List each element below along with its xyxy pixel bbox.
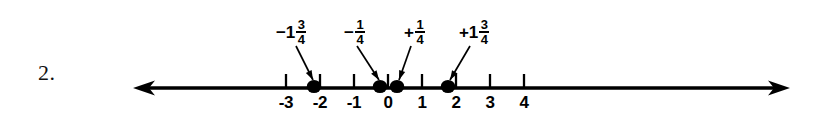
callout-fraction-point-pos-1-4: 14 (415, 18, 425, 47)
plotted-point-point-neg-1-4[interactable] (373, 80, 387, 93)
callout-label-point-neg-1-3-4: −134 (276, 18, 306, 47)
callout-fraction-point-neg-1-4: 14 (355, 18, 365, 47)
axis-tick-label-0: 0 (383, 94, 392, 111)
plotted-point-point-pos-1-3-4[interactable] (441, 80, 455, 93)
plotted-point-point-pos-1-4[interactable] (390, 80, 404, 93)
callout-fraction-point-neg-1-3-4: 34 (296, 18, 306, 47)
leader-arrowhead-icon-point-neg-1-3-4 (306, 70, 313, 80)
callout-label-point-neg-1-4: −14 (344, 18, 365, 47)
axis-tick-label-3: 3 (485, 94, 494, 111)
axis-tick-label-1: 1 (417, 94, 426, 111)
fraction-denominator-point-pos-1-3-4: 4 (480, 33, 489, 46)
callout-label-point-pos-1-3-4: +134 (459, 18, 489, 47)
callout-fraction-point-pos-1-3-4: 34 (479, 18, 489, 47)
leader-arrowhead-icon-point-neg-1-4 (371, 70, 379, 80)
leader-arrowhead-icon-point-pos-1-4 (399, 70, 405, 80)
fraction-denominator-point-pos-1-4: 4 (416, 33, 425, 46)
fraction-numerator-point-neg-1-3-4: 3 (297, 18, 306, 31)
axis-tick-label-neg1: -1 (347, 94, 362, 111)
axis-tick-label-neg3: -3 (279, 94, 294, 111)
number-line-figure: 2. −134−14+14+134 -3-2-101234 (0, 0, 837, 127)
axis-tick-label-neg2: -2 (313, 94, 328, 111)
axis-tick-label-4: 4 (519, 94, 528, 111)
callout-label-point-pos-1-4: +14 (404, 18, 425, 47)
fraction-denominator-point-neg-1-3-4: 4 (297, 33, 306, 46)
axis-tick-label-2: 2 (451, 94, 460, 111)
fraction-numerator-point-pos-1-4: 1 (416, 18, 425, 31)
plotted-point-point-neg-1-3-4[interactable] (307, 80, 321, 93)
callout-sign-integer-point-neg-1-3-4: −1 (276, 24, 295, 41)
fraction-numerator-point-pos-1-3-4: 3 (480, 18, 489, 31)
fraction-numerator-point-neg-1-4: 1 (356, 18, 365, 31)
callout-sign-integer-point-pos-1-3-4: +1 (459, 24, 478, 41)
fraction-denominator-point-neg-1-4: 4 (356, 33, 365, 46)
callout-sign-integer-point-neg-1-4: − (344, 24, 354, 41)
callout-sign-integer-point-pos-1-4: + (404, 24, 414, 41)
